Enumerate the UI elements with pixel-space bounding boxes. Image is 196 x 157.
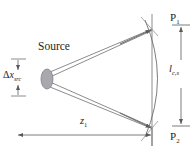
ray-upper-b (50, 31, 152, 78)
ray-upper-arrowhead (120, 30, 151, 44)
ray-lower-a (50, 82, 152, 127)
ray-lower-arrowhead (120, 113, 151, 128)
dimension-z1 (18, 128, 152, 146)
cs-subscript: c,s (172, 69, 179, 76)
point-p2-label: P2 (170, 131, 180, 145)
p1-subscript: 1 (176, 18, 179, 25)
src-subscript: src (14, 75, 21, 82)
distance-z1-label: z1 (80, 116, 87, 129)
source-label: Source (38, 41, 70, 53)
coherence-length-label: lc,s (169, 64, 179, 77)
z1-subscript: 1 (84, 121, 87, 128)
source-ellipse (41, 69, 53, 89)
wavefront-arc (145, 20, 158, 137)
diagram-canvas (0, 0, 196, 157)
delta-x-src-label: Δxsrc (3, 70, 21, 82)
ray-bundle-upper (50, 29, 152, 77)
figure-container: Source Δxsrc P1 P2 lc,s z1 (0, 0, 196, 157)
ray-lower-b (50, 87, 152, 129)
p2-subscript: 2 (176, 137, 179, 144)
ray-bundle-lower (50, 82, 152, 129)
point-p1-label: P1 (170, 12, 180, 26)
